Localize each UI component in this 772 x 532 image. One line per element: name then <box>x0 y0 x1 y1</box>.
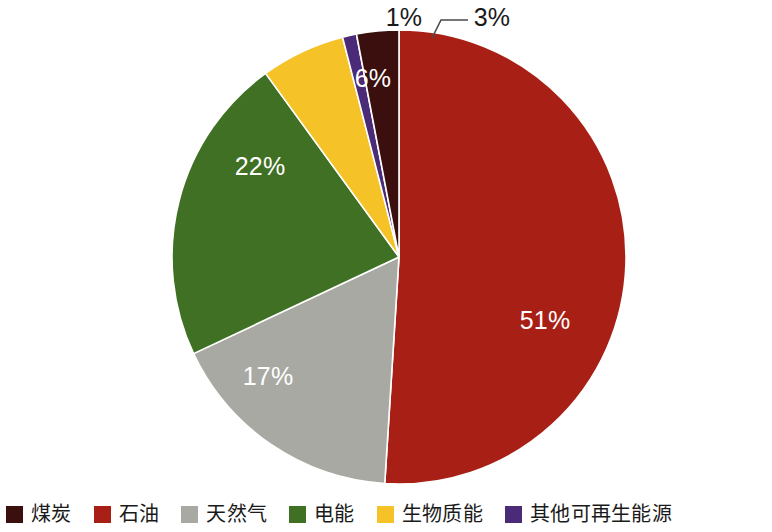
legend-item-label: 其他可再生能源 <box>530 503 672 525</box>
legend-swatch-icon <box>377 506 394 523</box>
data-label-electricity: 22% <box>235 152 286 180</box>
chart-legend: 煤炭石油天然气电能生物质能其他可再生能源 <box>0 496 772 532</box>
legend-item[interactable]: 石油 <box>94 503 160 525</box>
legend-item-label: 电能 <box>314 503 355 525</box>
legend-swatch-icon <box>505 506 522 523</box>
data-label-natural-gas: 17% <box>243 362 294 390</box>
legend-item[interactable]: 天然气 <box>181 503 267 525</box>
pie-chart-svg: 51% 17% 22% 6% 1% 3% <box>0 0 772 496</box>
pie-slice-oil[interactable] <box>385 30 626 484</box>
legend-item-label: 天然气 <box>206 503 267 525</box>
legend-swatch-icon <box>6 506 23 523</box>
legend-item[interactable]: 煤炭 <box>6 503 72 525</box>
pie-slices-group <box>172 30 626 484</box>
legend-swatch-icon <box>289 506 306 523</box>
data-label-biomass: 6% <box>355 64 392 92</box>
legend-swatch-icon <box>94 506 111 523</box>
pie-chart-figure: 51% 17% 22% 6% 1% 3% 煤炭石油天然气电能生物质能其他可再生能… <box>0 0 772 532</box>
legend-item-label: 石油 <box>119 503 160 525</box>
legend-item-label: 煤炭 <box>31 503 72 525</box>
legend-item[interactable]: 生物质能 <box>377 503 483 525</box>
legend-item[interactable]: 其他可再生能源 <box>505 503 672 525</box>
legend-swatch-icon <box>181 506 198 523</box>
data-label-coal: 3% <box>474 3 511 31</box>
pie-chart-plot-area: 51% 17% 22% 6% 1% 3% <box>0 0 772 496</box>
data-label-other-renewable: 1% <box>386 3 423 31</box>
legend-item-label: 生物质能 <box>402 503 483 525</box>
legend-item[interactable]: 电能 <box>289 503 355 525</box>
data-label-oil: 51% <box>520 306 571 334</box>
